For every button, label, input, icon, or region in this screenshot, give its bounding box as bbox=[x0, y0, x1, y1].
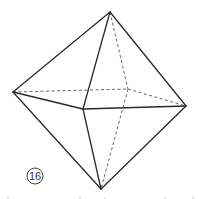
figure-number-label: 16 bbox=[27, 168, 43, 184]
visible-edges bbox=[13, 12, 186, 189]
edge-right-bottom bbox=[101, 106, 186, 189]
hidden-edge-left-back bbox=[13, 89, 128, 92]
edge-front-bottom bbox=[83, 109, 101, 189]
label-number: 16 bbox=[29, 170, 41, 182]
hidden-edge-back-bottom bbox=[101, 89, 128, 189]
edge-left-front bbox=[13, 92, 83, 109]
edge-front-right bbox=[83, 106, 186, 109]
hidden-edge-back-right bbox=[128, 89, 186, 106]
scan-ticks bbox=[8, 197, 193, 199]
edge-top-right bbox=[110, 12, 186, 106]
edge-top-left bbox=[13, 12, 110, 92]
edge-top-front bbox=[83, 12, 110, 109]
edge-left-bottom bbox=[13, 92, 101, 189]
octahedron-diagram: 16 bbox=[0, 0, 198, 199]
hidden-edges bbox=[13, 12, 186, 189]
